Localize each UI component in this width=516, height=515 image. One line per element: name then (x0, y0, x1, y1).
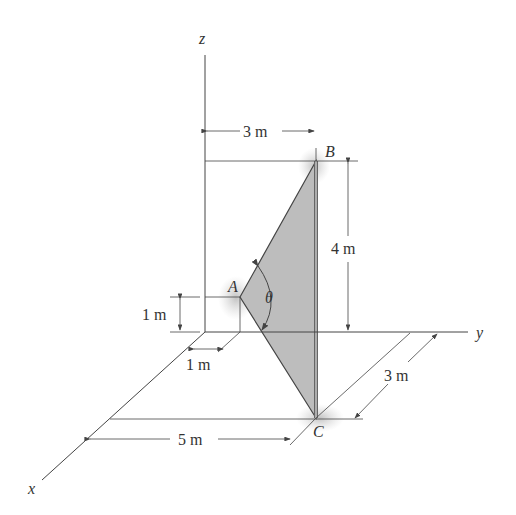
y-axis-label: y (474, 324, 484, 342)
angle-theta-label: θ (265, 289, 273, 306)
dim-1m-height: 1 m (142, 306, 167, 323)
x-axis-label: x (27, 480, 35, 497)
x-axis (42, 332, 205, 480)
dim-3m-depth: 3 m (384, 367, 409, 384)
dim-5m: 5 m (178, 431, 203, 448)
triangular-plate (240, 161, 316, 418)
point-C-label: C (313, 423, 324, 440)
dim-1m-offset: 1 m (186, 356, 211, 373)
point-A-label: A (227, 278, 238, 295)
statics-diagram: z y x B A C θ 3 m 4 m 1 m 1 m 5 m 3 m (0, 0, 516, 515)
z-axis-label: z (198, 30, 206, 47)
dim-3m-top: 3 m (243, 123, 268, 140)
dim-4m: 4 m (331, 240, 356, 257)
point-B-label: B (325, 143, 335, 160)
